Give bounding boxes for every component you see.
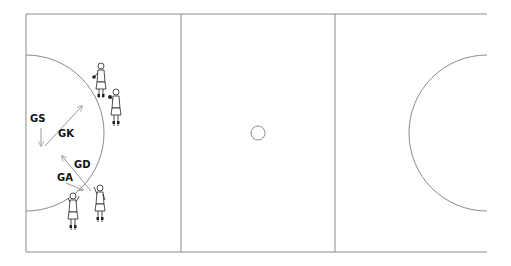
player-figure-icon (94, 185, 105, 222)
label-ga: GA (57, 172, 73, 183)
centre-circle (251, 126, 265, 140)
player-figure-icon (68, 193, 79, 230)
goal-circle-right (409, 55, 487, 211)
ga-movement-arrow (66, 183, 83, 190)
netball-court-diagram: GS GK GD GA (0, 0, 511, 266)
label-gd: GD (74, 159, 91, 170)
label-gk: GK (58, 128, 75, 139)
player-figure-icon (92, 63, 106, 98)
label-gs: GS (30, 113, 45, 124)
player-figure-icon (108, 89, 121, 126)
gk-movement-arrow (45, 106, 82, 146)
